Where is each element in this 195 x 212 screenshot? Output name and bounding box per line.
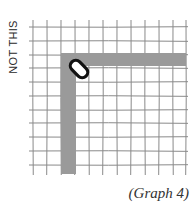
graph-figure xyxy=(0,0,195,212)
side-label-text: NOT THIS xyxy=(7,20,19,73)
grid-horizontal-line xyxy=(29,68,188,69)
grid-horizontal-line xyxy=(29,96,188,97)
grid-vertical-line xyxy=(159,20,160,175)
grid-horizontal-line xyxy=(29,27,188,28)
grid-horizontal-line xyxy=(29,151,188,152)
grid-horizontal-line xyxy=(29,110,188,111)
grid-horizontal-line xyxy=(29,41,188,42)
grid-vertical-line xyxy=(131,20,132,175)
grid-horizontal-line xyxy=(29,123,188,124)
grid-vertical-line xyxy=(103,20,104,175)
grid-lines xyxy=(29,20,188,175)
grid-horizontal-line xyxy=(29,137,188,138)
grid-horizontal-line xyxy=(29,165,188,166)
grid-vertical-line xyxy=(47,20,48,175)
side-label: NOT THIS xyxy=(6,22,20,72)
grid-horizontal-line xyxy=(29,82,188,83)
figure-caption: (Graph 4) xyxy=(129,185,189,202)
